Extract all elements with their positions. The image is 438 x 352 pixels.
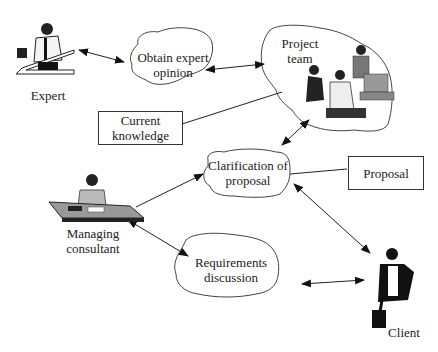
connector-current-knowledge-project-team xyxy=(182,92,282,124)
managing-consultant-label: Managing consultant xyxy=(62,226,124,256)
project-team-line2: team xyxy=(278,51,322,66)
requirements-line2: discussion xyxy=(190,270,272,285)
managing-consultant-line1: Managing xyxy=(62,226,124,241)
requirements-line1: Requirements xyxy=(190,255,272,270)
obtain-expert-opinion-label: Obtain expert opinion xyxy=(132,50,214,80)
connector-obtain-opinion-project-team xyxy=(206,64,264,70)
project-team-line1: Project xyxy=(278,36,322,51)
client-figure-icon xyxy=(372,248,414,328)
connector-proposal-clarification xyxy=(290,169,347,174)
requirements-discussion-label: Requirements discussion xyxy=(190,255,272,285)
clarification-of-proposal-label: Clarification of proposal xyxy=(205,158,291,188)
connector-consultant-clarification xyxy=(136,174,203,207)
obtain-expert-opinion-line1: Obtain expert xyxy=(132,50,214,65)
connector-expert-obtain-opinion xyxy=(79,50,124,62)
connector-project-team-clarification xyxy=(282,120,309,145)
clarification-line2: proposal xyxy=(205,173,291,188)
connector-consultant-requirements xyxy=(128,220,188,256)
clarification-line1: Clarification of xyxy=(205,158,291,173)
proposal-box: Proposal xyxy=(348,156,424,190)
current-knowledge-line2: knowledge xyxy=(112,128,169,143)
obtain-expert-opinion-line2: opinion xyxy=(132,65,214,80)
managing-consultant-figure-icon xyxy=(49,174,144,222)
managing-consultant-line2: consultant xyxy=(62,241,124,256)
expert-label: Expert xyxy=(23,88,73,103)
current-knowledge-box: Current knowledge xyxy=(98,111,183,145)
connector-clarification-client xyxy=(294,184,370,253)
project-team-label: Project team xyxy=(278,36,322,66)
current-knowledge-line1: Current xyxy=(112,113,169,128)
proposal-line1: Proposal xyxy=(363,166,409,181)
connector-requirements-client xyxy=(302,280,364,284)
client-label: Client xyxy=(384,325,424,340)
expert-figure-icon xyxy=(16,23,74,74)
